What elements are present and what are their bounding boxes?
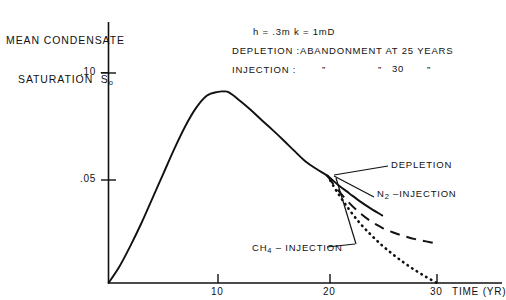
leader-line-ch4 — [336, 178, 356, 244]
series-label-ch4-rest: – INJECTION — [272, 242, 342, 253]
annotation-conditions: h = .3m k = 1mD — [253, 26, 335, 37]
annotation-depletion-text: ABANDONMENT AT 25 YEARS — [300, 45, 453, 56]
series-label-ch4-main: CH — [252, 242, 267, 253]
x-tick-label-20: 20 — [323, 286, 336, 297]
series-label-n2-main: N — [377, 188, 385, 199]
y-axis-symbol-subscript: o — [109, 78, 114, 87]
y-tick-label-0.05: .05 — [80, 173, 96, 184]
y-tick-label-0.10: .10 — [80, 66, 96, 77]
annotation-depletion-label: DEPLETION : — [232, 45, 300, 56]
leader-line-depletion — [334, 166, 388, 175]
annotation-injection-ditto-2: ” — [378, 64, 382, 75]
x-tick-label-30: 30 — [430, 286, 443, 297]
annotation-injection-years: 30 — [392, 63, 404, 74]
series-label-depletion: DEPLETION — [391, 159, 452, 170]
y-axis-title-line1: MEAN CONDENSATE — [6, 34, 125, 46]
series-label-n2-rest: –INJECTION — [390, 188, 457, 199]
annotation-injection-label: INJECTION : — [232, 64, 296, 75]
x-axis-title: TIME (YR) — [452, 286, 506, 297]
annotation-injection-ditto-1: ” — [322, 64, 326, 75]
y-axis-symbol: S — [101, 73, 109, 85]
series-label-n2-injection: N2 –INJECTION — [377, 188, 457, 201]
x-tick-label-10: 10 — [211, 286, 224, 297]
series-label-ch4-injection: CH4 – INJECTION — [252, 242, 343, 255]
series-line-n2-injection — [328, 176, 438, 244]
annotation-injection-ditto-3: ” — [427, 64, 431, 75]
y-axis-title: MEAN CONDENSATE SATURATION So — [6, 8, 125, 102]
